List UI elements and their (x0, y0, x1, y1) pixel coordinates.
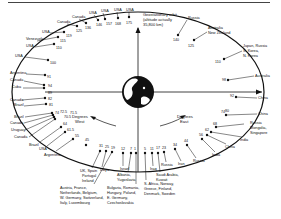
svg-text:100: 100 (50, 61, 56, 65)
svg-text:115: 115 (60, 39, 66, 43)
svg-text:Brazil: Brazil (14, 115, 24, 119)
svg-text:China: China (225, 145, 236, 149)
svg-text:Canada: Canada (10, 121, 24, 125)
svg-text:61.5: 61.5 (67, 128, 74, 132)
svg-text:USA: USA (26, 44, 34, 48)
svg-text:71.5: 71.5 (70, 111, 77, 115)
svg-text:82: 82 (48, 97, 52, 101)
svg-text:56: 56 (199, 133, 203, 137)
svg-text:140: 140 (173, 38, 179, 42)
svg-text:19: 19 (111, 146, 115, 150)
svg-text:35,800 km): 35,800 km) (143, 22, 164, 27)
svg-text:Netherlands, Belgium,: Netherlands, Belgium, (60, 191, 97, 195)
svg-text:7: 7 (130, 147, 132, 151)
svg-text:146: 146 (96, 23, 102, 27)
arrow-north-icon (136, 27, 141, 33)
svg-text:Brazil: Brazil (14, 103, 24, 107)
svg-text:Uruguay: Uruguay (11, 128, 25, 132)
svg-text:Albania,: Albania, (117, 173, 131, 177)
svg-text:East: East (180, 119, 189, 124)
svg-text:125: 125 (188, 44, 194, 48)
svg-text:80: 80 (225, 109, 229, 113)
svg-text:USA: USA (42, 30, 50, 34)
svg-text:W. Germany, Switzerland,: W. Germany, Switzerland, (60, 196, 104, 200)
svg-text:25: 25 (105, 145, 109, 149)
svg-text:44: 44 (184, 139, 188, 143)
svg-text:Ireland: Ireland (82, 179, 94, 183)
svg-text:136: 136 (85, 26, 91, 30)
svg-text:Canada: Canada (14, 135, 28, 139)
svg-text:175: 175 (126, 21, 132, 25)
svg-text:157: 157 (106, 22, 112, 26)
svg-text:S. Africa, Norway,: S. Africa, Norway, (144, 182, 174, 186)
svg-text:Canada: Canada (72, 15, 86, 19)
svg-text:Canada: Canada (10, 78, 24, 82)
geostationary-orbit-diagram: Degrees West Degrees East Geostationary … (0, 0, 281, 219)
svg-text:Russia: Russia (193, 159, 205, 163)
svg-text:Iran: Iran (178, 162, 185, 166)
svg-text:Saudi Arabia,: Saudi Arabia, (156, 173, 179, 177)
svg-text:Kuwait: Kuwait (156, 178, 168, 182)
direction-labels: Degrees West Degrees East (72, 114, 193, 124)
svg-text:70.5: 70.5 (64, 115, 71, 119)
svg-text:Canada: Canada (10, 98, 24, 102)
svg-text:31: 31 (99, 144, 103, 148)
svg-text:USA: USA (114, 8, 122, 12)
svg-text:94: 94 (48, 84, 52, 88)
svg-text:China: China (258, 96, 269, 100)
svg-text:12: 12 (121, 147, 125, 151)
svg-text:USA: USA (39, 147, 47, 151)
geo-orbit-note: Geostationary orbit (altitude actually 3… (143, 12, 178, 27)
arrow-east-icon (256, 90, 262, 95)
svg-text:India: India (240, 138, 249, 142)
svg-text:110: 110 (56, 46, 62, 50)
svg-text:Russia: Russia (161, 163, 173, 167)
svg-text:125: 125 (76, 29, 82, 33)
svg-text:Libya: Libya (100, 168, 110, 172)
svg-text:N. Korea: N. Korea (243, 54, 259, 58)
svg-text:Canada: Canada (57, 20, 71, 24)
svg-text:Portugal: Portugal (82, 174, 96, 178)
svg-text:64: 64 (63, 122, 67, 126)
svg-text:45: 45 (85, 138, 89, 142)
svg-text:Bulgaria, Romania,: Bulgaria, Romania, (107, 186, 139, 190)
svg-text:17: 17 (156, 146, 160, 150)
svg-text:UK, Spain: UK, Spain (80, 169, 97, 173)
svg-text:11: 11 (150, 147, 154, 151)
svg-text:Japan, Russia: Japan, Russia (243, 44, 268, 48)
svg-text:23: 23 (162, 146, 166, 150)
svg-text:Argentina: Argentina (10, 71, 27, 75)
svg-text:Czechoslovakia: Czechoslovakia (107, 201, 134, 205)
svg-text:China: China (258, 112, 269, 116)
svg-text:Russia: Russia (250, 121, 262, 125)
svg-text:Israel: Israel (120, 167, 129, 171)
svg-text:India: India (212, 153, 221, 157)
svg-text:1: 1 (134, 147, 136, 151)
svg-text:USA: USA (15, 54, 23, 58)
svg-text:Venezuela: Venezuela (26, 37, 45, 41)
svg-text:74: 74 (55, 111, 59, 115)
svg-text:55: 55 (75, 134, 79, 138)
svg-text:E. Germany,: E. Germany, (107, 196, 128, 200)
svg-text:72.5: 72.5 (60, 110, 67, 114)
earth-globe-icon (122, 76, 154, 108)
svg-text:Italy, Luxembourg: Italy, Luxembourg (60, 201, 90, 205)
svg-text:119: 119 (66, 34, 72, 38)
svg-text:Cuba: Cuba (12, 85, 22, 89)
svg-text:Brazil: Brazil (29, 143, 39, 147)
svg-text:Russia: Russia (188, 16, 200, 20)
svg-text:Denmark, Sweden: Denmark, Sweden (144, 192, 175, 196)
svg-text:Argentina: Argentina (44, 153, 61, 157)
svg-text:Singapore: Singapore (250, 131, 267, 135)
svg-text:98: 98 (222, 78, 226, 82)
arrow-west-icon (90, 116, 96, 120)
svg-text:Australia: Australia (255, 74, 271, 78)
svg-text:89: 89 (48, 91, 52, 95)
svg-text:Mongolia,: Mongolia, (250, 126, 266, 130)
svg-text:Iraq: Iraq (150, 167, 157, 171)
svg-text:62: 62 (205, 128, 209, 132)
svg-text:Greece, Finland,: Greece, Finland, (144, 187, 172, 191)
svg-text:Australia: Australia (208, 26, 224, 30)
svg-text:USA: USA (101, 9, 109, 13)
svg-text:5: 5 (144, 147, 146, 151)
